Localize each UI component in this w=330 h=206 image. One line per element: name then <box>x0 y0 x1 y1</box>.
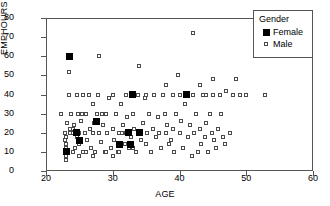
y-axis-title-text: EMPHOURS <box>0 0 9 55</box>
data-point-male <box>191 31 195 35</box>
data-point-female <box>125 129 132 136</box>
data-point-male <box>71 150 75 154</box>
data-point-male <box>244 93 248 97</box>
data-point-male <box>228 131 232 135</box>
data-point-male <box>96 93 100 97</box>
data-point-male <box>224 89 228 93</box>
legend-label-female: Female <box>273 27 303 37</box>
data-point-male <box>223 142 227 146</box>
data-point-female <box>136 129 143 136</box>
data-point-male <box>238 93 242 97</box>
data-point-male <box>147 112 151 116</box>
y-tick-label: 50 <box>0 70 14 79</box>
data-point-male <box>204 121 208 125</box>
y-tick-mark <box>41 133 46 134</box>
x-axis-title: AGE <box>0 189 330 199</box>
data-point-male <box>91 102 95 106</box>
legend-item-female[interactable]: Female <box>259 26 312 38</box>
scatter-chart: EMPHOURS AGE 01020304050607080 203040506… <box>0 0 330 206</box>
data-point-male <box>111 127 115 131</box>
female-marker-icon <box>259 29 273 36</box>
male-marker-icon <box>259 42 273 46</box>
data-point-male <box>206 150 210 154</box>
data-point-male <box>211 77 215 81</box>
data-point-male <box>68 127 72 131</box>
x-tick-mark <box>246 171 247 176</box>
data-point-male <box>81 93 85 97</box>
data-point-male <box>163 112 167 116</box>
x-tick-mark <box>46 171 47 176</box>
data-point-female <box>127 141 134 148</box>
data-point-male <box>174 112 178 116</box>
data-point-male <box>85 138 89 142</box>
data-point-male <box>218 93 222 97</box>
data-point-male <box>111 93 115 97</box>
data-point-male <box>188 123 192 127</box>
data-point-male <box>219 112 223 116</box>
data-point-female <box>66 53 73 60</box>
data-point-male <box>159 146 163 150</box>
data-point-male <box>190 154 194 158</box>
data-point-male <box>192 131 196 135</box>
data-point-male <box>221 135 225 139</box>
legend: Gender Female Male <box>253 10 313 58</box>
data-point-male <box>117 150 121 154</box>
data-point-male <box>198 127 202 131</box>
data-point-male <box>105 131 109 135</box>
data-point-male <box>75 93 79 97</box>
y-tick-mark <box>41 56 46 57</box>
x-axis-title-text: AGE <box>155 189 175 199</box>
data-point-male <box>208 112 212 116</box>
data-point-male <box>73 146 77 150</box>
data-point-male <box>171 127 175 131</box>
data-point-male <box>67 93 71 97</box>
data-point-male <box>111 154 115 158</box>
data-point-male <box>172 150 176 154</box>
x-tick-mark <box>113 171 114 176</box>
data-point-male <box>107 96 111 100</box>
data-point-male <box>104 112 108 116</box>
data-point-male <box>91 131 95 135</box>
data-point-male <box>216 127 220 131</box>
data-point-male <box>144 142 148 146</box>
data-point-female <box>76 137 83 144</box>
data-point-male <box>211 93 215 97</box>
data-point-male <box>97 54 101 58</box>
legend-item-male[interactable]: Male <box>259 38 312 50</box>
data-point-male <box>65 121 69 125</box>
data-point-male <box>95 112 99 116</box>
y-tick-label: 20 <box>0 128 14 137</box>
data-point-male <box>214 146 218 150</box>
data-point-male <box>231 93 235 97</box>
data-point-male <box>101 123 105 127</box>
data-point-male <box>210 131 214 135</box>
data-point-male <box>87 93 91 97</box>
data-point-male <box>143 96 147 100</box>
y-tick-label: 30 <box>0 109 14 118</box>
data-point-male <box>191 93 195 97</box>
data-point-male <box>145 131 149 135</box>
y-tick-mark <box>41 152 46 153</box>
y-axis-title: EMPHOURS <box>0 0 9 55</box>
data-point-male <box>165 123 169 127</box>
y-tick-mark <box>41 18 46 19</box>
data-point-male <box>141 121 145 125</box>
data-point-male <box>104 150 108 154</box>
data-point-male <box>91 154 95 158</box>
data-point-male <box>169 138 173 142</box>
data-point-male <box>164 83 168 87</box>
y-tick-label: 80 <box>0 13 14 22</box>
data-point-female <box>73 129 80 136</box>
x-tick-mark <box>180 171 181 176</box>
data-point-male <box>64 135 68 139</box>
data-point-male <box>77 154 81 158</box>
data-point-male <box>97 131 101 135</box>
data-point-male <box>204 93 208 97</box>
data-point-male <box>178 93 182 97</box>
data-point-male <box>64 142 68 146</box>
data-point-female <box>63 148 70 155</box>
data-point-male <box>109 146 113 150</box>
legend-label-male: Male <box>273 39 293 49</box>
data-point-male <box>164 131 168 135</box>
y-tick-label: 40 <box>0 90 14 99</box>
